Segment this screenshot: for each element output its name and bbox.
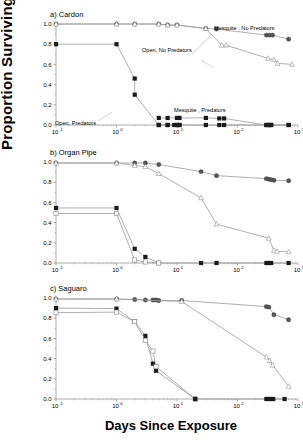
data-point-filled-circle (286, 318, 290, 322)
data-point-open-square (133, 320, 137, 324)
panel-c-title: c) Saguaro (50, 284, 87, 293)
leader-line (192, 34, 212, 54)
data-point-open-triangle (199, 195, 204, 200)
x-tick-label-base: 10 (52, 267, 59, 273)
x-tick-label-exponent: 3 (302, 401, 303, 406)
data-point-filled-square (217, 116, 221, 120)
y-tick-label: 0.6 (43, 336, 52, 342)
y-axis-label-container: Proportion Surviving (0, 0, 26, 440)
data-point-filled-circle (270, 33, 274, 37)
data-point-open-square (114, 211, 118, 215)
data-point-filled-circle (214, 173, 218, 177)
leader-line (201, 60, 214, 68)
data-point-filled-square (157, 123, 161, 127)
x-tick-label-exponent: 3 (302, 127, 303, 132)
x-tick-label-exponent: 0 (120, 265, 123, 270)
x-tick-label-exponent: 2 (241, 127, 244, 132)
data-point-filled-circle (272, 312, 276, 316)
series-open-no-predators (54, 160, 291, 253)
data-point-open-square (143, 338, 147, 342)
y-tick-label: 1.0 (43, 159, 52, 165)
data-point-filled-circle (157, 162, 161, 166)
data-point-filled-square (193, 397, 197, 401)
x-tick-label-base: 10 (112, 403, 119, 409)
series-line (56, 299, 289, 320)
series-open-predators (54, 42, 182, 127)
data-point-filled-square (157, 116, 161, 120)
data-point-filled-circle (199, 169, 203, 173)
series-mesquite-predators (54, 206, 291, 265)
data-point-filled-square (154, 369, 158, 373)
data-point-open-square (154, 365, 158, 369)
data-point-filled-square (269, 123, 273, 127)
series-mesquite-no-predators (54, 161, 291, 183)
data-point-filled-square (133, 93, 137, 97)
data-point-filled-square (287, 123, 291, 127)
series-line (56, 163, 289, 252)
data-point-filled-square (114, 42, 118, 46)
y-tick-label: 0.6 (43, 62, 52, 68)
x-tick-label-base: 10 (233, 267, 240, 273)
y-tick-label: 0.4 (43, 220, 52, 226)
series-baseline-zeros (193, 397, 287, 401)
y-tick-label: 0.2 (43, 102, 52, 108)
data-point-open-triangle (214, 222, 219, 227)
series-line (56, 163, 289, 181)
y-tick-label: 0.8 (43, 315, 52, 321)
data-point-filled-square (282, 397, 286, 401)
x-tick-label-exponent: 0 (120, 401, 123, 406)
data-point-filled-square (204, 123, 208, 127)
y-tick-label: 0.0 (43, 260, 52, 266)
data-point-filled-square (217, 123, 221, 127)
annotation-mesquite-no-predators: Mesquite , No Predators (214, 25, 275, 31)
panel-a-title: a) Cardon (50, 10, 83, 19)
x-tick-label-base: 10 (294, 403, 301, 409)
data-point-filled-square (133, 76, 137, 80)
annotation-open-predators: Open, Predators (55, 120, 96, 126)
panel-b-plot: 0.00.20.40.60.81.010-1100101102103 (26, 146, 303, 282)
data-point-filled-square (204, 116, 208, 120)
annotation-open-no-predators: Open, No Predators (142, 47, 192, 53)
data-point-filled-circle (272, 178, 276, 182)
data-point-open-triangle (264, 354, 269, 359)
data-point-open-square (151, 349, 155, 353)
series-mesquite-predators-zeros (157, 123, 291, 127)
series-line (56, 308, 195, 399)
data-point-filled-square (133, 247, 137, 251)
series-line (56, 312, 195, 399)
panel-c-saguaro: c) Saguaro 0.00.20.40.60.81.010-11001011… (26, 282, 303, 418)
leader-line (98, 112, 112, 121)
data-point-filled-square (199, 261, 203, 265)
data-point-filled-square (214, 261, 218, 265)
y-tick-label: 0.0 (43, 396, 52, 402)
x-tick-label-base: 10 (173, 403, 180, 409)
annotation-mesquite-predators: Mesquite , Predators (174, 107, 226, 113)
y-tick-label: 0.0 (43, 122, 52, 128)
x-tick-label-base: 10 (173, 129, 180, 135)
data-point-open-square (157, 261, 161, 265)
series-mesquite-predators (54, 306, 197, 401)
x-tick-label-exponent: 1 (181, 127, 184, 132)
series-line (56, 208, 289, 263)
data-point-open-square (143, 260, 147, 264)
series-mesquite-no-predators (54, 297, 291, 322)
data-point-filled-square (166, 116, 170, 120)
data-point-filled-square (54, 206, 58, 210)
data-point-filled-square (222, 116, 226, 120)
series-open-predators (54, 310, 197, 401)
data-point-open-square (54, 211, 58, 215)
data-point-open-triangle (156, 171, 161, 176)
x-tick-label-exponent: 1 (181, 265, 184, 270)
panel-a-cardon: a) Cardon 0.00.20.40.60.81.010-110010110… (26, 8, 303, 144)
y-tick-label: 0.2 (43, 376, 52, 382)
x-axis-label: Days Since Exposure (46, 418, 296, 433)
y-tick-label: 0.4 (43, 82, 52, 88)
y-tick-label: 0.6 (43, 200, 52, 206)
data-point-filled-square (177, 116, 181, 120)
x-tick-label-exponent: 1 (181, 401, 184, 406)
x-tick-label-base: 10 (233, 403, 240, 409)
y-tick-label: 0.8 (43, 41, 52, 47)
x-tick-label-base: 10 (173, 267, 180, 273)
x-tick-label-exponent: -1 (59, 127, 63, 132)
x-tick-label-base: 10 (52, 403, 59, 409)
